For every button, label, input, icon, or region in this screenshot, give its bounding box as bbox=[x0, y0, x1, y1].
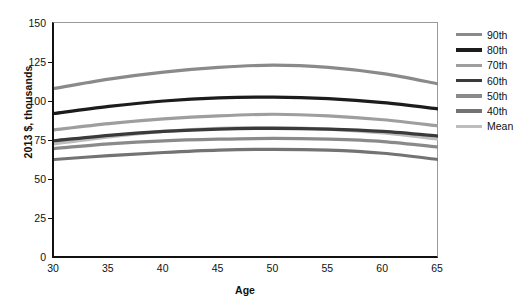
legend-label: 40th bbox=[487, 105, 507, 117]
x-tick-label: 35 bbox=[88, 262, 128, 274]
legend-item-40th[interactable]: 40th bbox=[456, 103, 528, 118]
legend-swatch bbox=[456, 109, 482, 112]
legend-item-70th[interactable]: 70th bbox=[456, 58, 528, 73]
series-line-50th bbox=[54, 138, 438, 148]
x-tick-label: 55 bbox=[307, 262, 347, 274]
legend-label: 90th bbox=[487, 29, 507, 41]
legend-label: 80th bbox=[487, 44, 507, 56]
x-tick-label: 60 bbox=[362, 262, 402, 274]
legend-item-60th[interactable]: 60th bbox=[456, 73, 528, 88]
legend-label: 60th bbox=[487, 75, 507, 87]
legend-swatch bbox=[456, 125, 482, 128]
x-tick-label: 40 bbox=[143, 262, 183, 274]
x-tick-label: 45 bbox=[198, 262, 238, 274]
legend-item-50th[interactable]: 50th bbox=[456, 88, 528, 103]
legend-swatch bbox=[456, 79, 482, 82]
legend-swatch bbox=[456, 33, 482, 36]
x-tick-label: 30 bbox=[33, 262, 73, 274]
x-tick-label: 50 bbox=[252, 262, 292, 274]
legend-label: 70th bbox=[487, 59, 507, 71]
series-line-40th bbox=[54, 149, 438, 159]
legend-label: 50th bbox=[487, 90, 507, 102]
legend-swatch bbox=[456, 48, 482, 51]
chart-figure: 2013 $, thousands Age 0255075100125150 3… bbox=[0, 0, 529, 305]
series-lines bbox=[54, 23, 438, 257]
legend-swatch bbox=[456, 94, 482, 97]
plot-area bbox=[52, 22, 438, 258]
series-line-90th bbox=[54, 65, 438, 88]
legend-item-90th[interactable]: 90th bbox=[456, 27, 528, 42]
chart-legend: 90th80th70th60th50th40thMean bbox=[456, 27, 528, 134]
series-line-80th bbox=[54, 97, 438, 113]
legend-item-mean[interactable]: Mean bbox=[456, 119, 528, 134]
legend-label: Mean bbox=[487, 120, 513, 132]
legend-item-80th[interactable]: 80th bbox=[456, 42, 528, 57]
x-tick-label: 65 bbox=[417, 262, 457, 274]
legend-swatch bbox=[456, 64, 482, 67]
